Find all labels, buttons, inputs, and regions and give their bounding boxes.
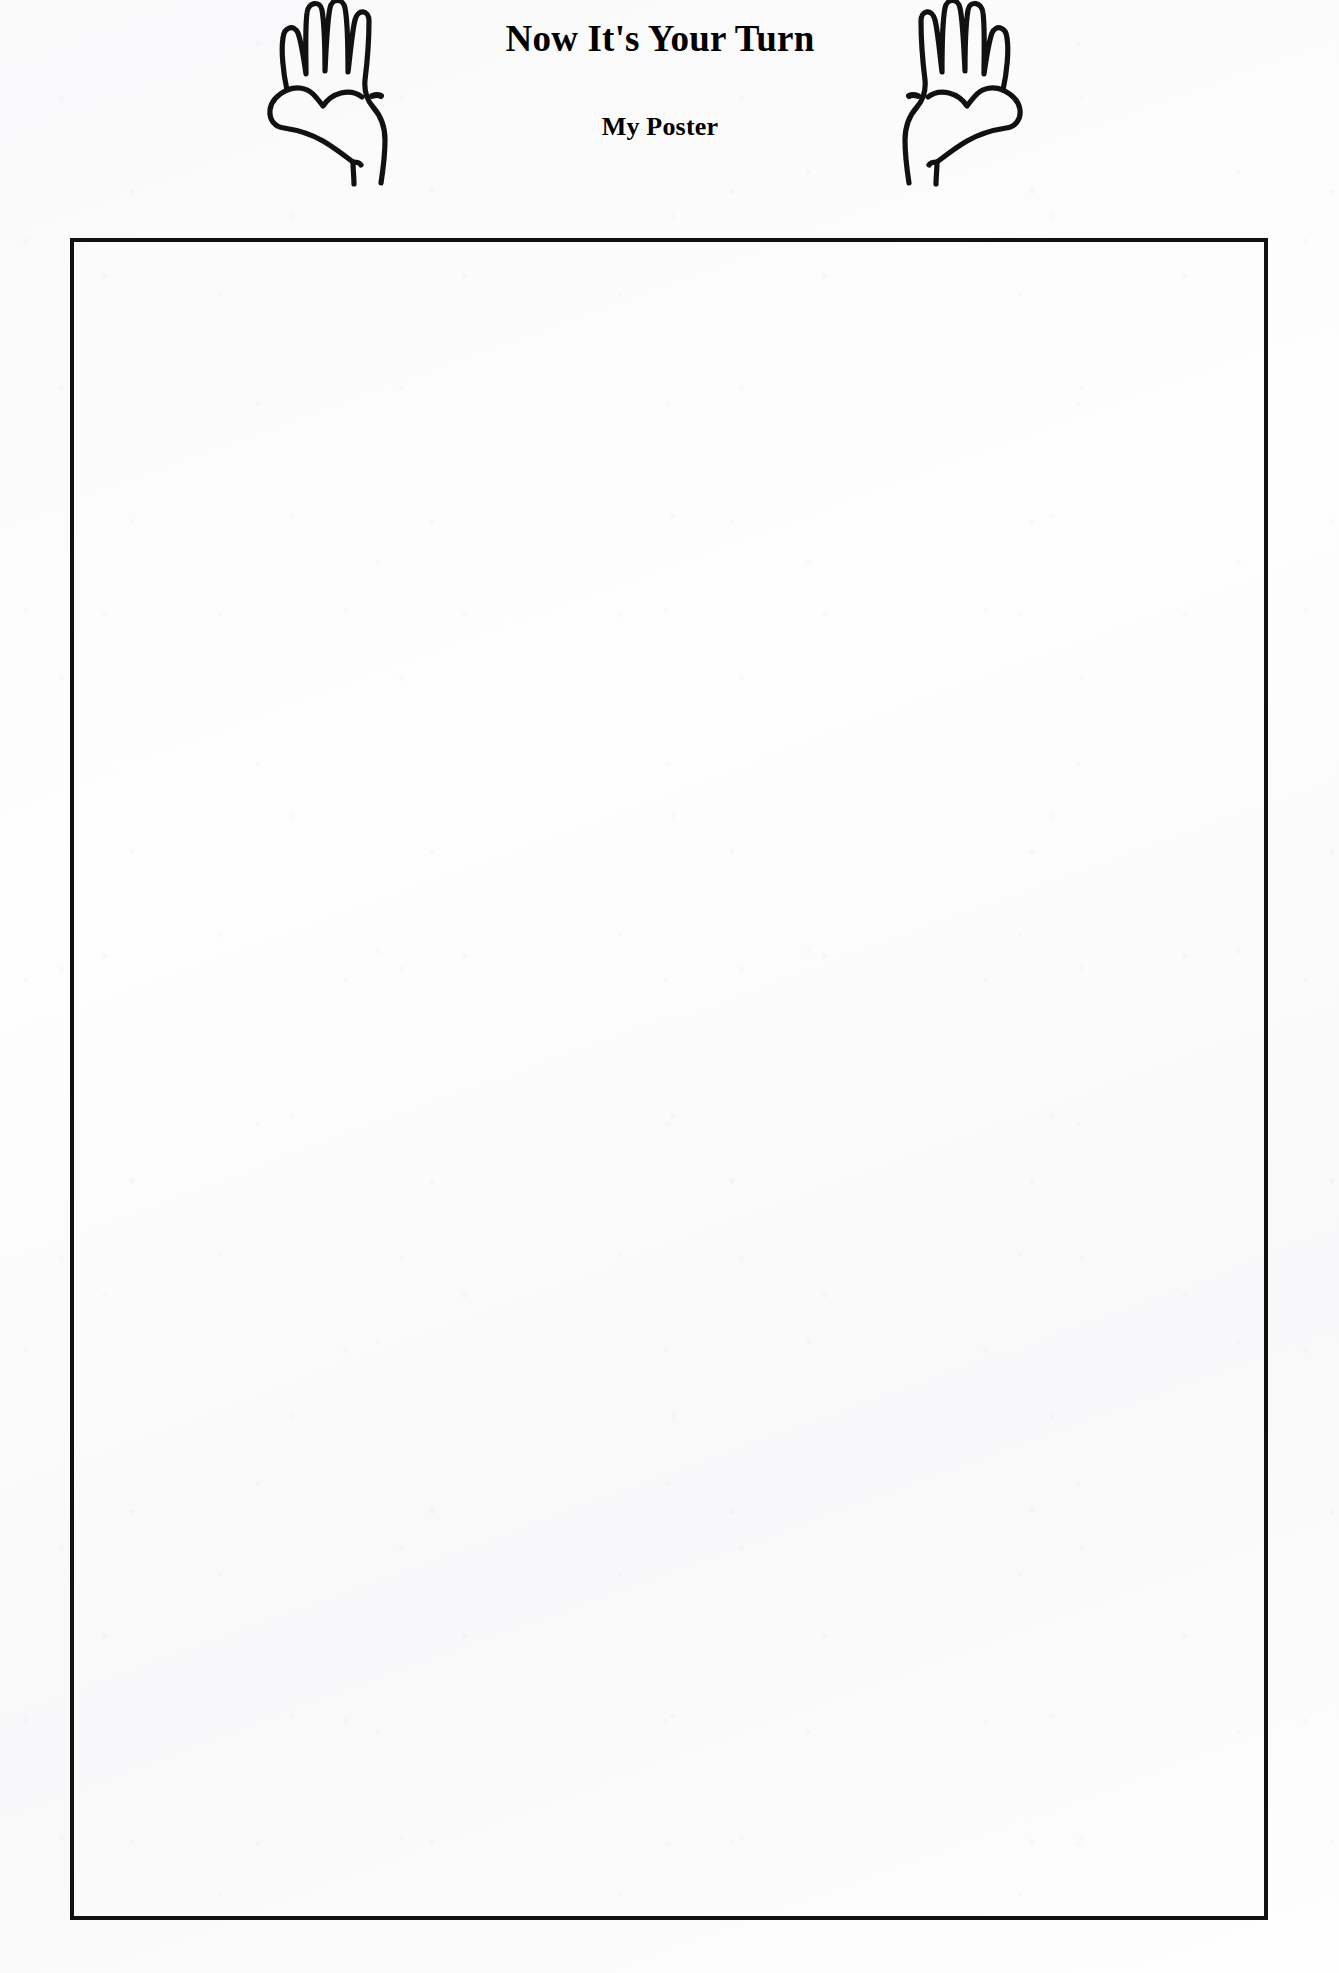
page-title: Now It's Your Turn <box>360 0 960 61</box>
page-subtitle: My Poster <box>360 61 960 142</box>
worksheet-page: Now It's Your Turn My Poster <box>0 0 1339 1973</box>
open-hand-right-icon <box>877 0 1027 194</box>
title-block: Now It's Your Turn My Poster <box>360 0 960 142</box>
page-header: Now It's Your Turn My Poster <box>0 0 1339 238</box>
open-hand-left-icon <box>263 0 413 194</box>
poster-drawing-area-content[interactable] <box>74 242 1264 1916</box>
poster-drawing-area[interactable] <box>70 238 1268 1920</box>
